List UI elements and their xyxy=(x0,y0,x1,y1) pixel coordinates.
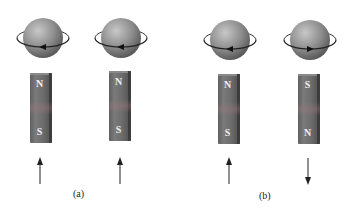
arrow-up-icon xyxy=(114,157,126,185)
magnet-pole-bottom: S xyxy=(218,128,237,138)
panel-label-b: (b) xyxy=(259,190,271,201)
bar-magnet-4: S N xyxy=(298,74,320,144)
panel-label-a: (a) xyxy=(73,188,84,199)
bar-magnet-2: N S xyxy=(109,71,131,141)
magnet-pole-bottom: S xyxy=(30,127,49,137)
spinning-electron-sphere-3 xyxy=(200,16,260,66)
sphere-icon xyxy=(280,16,340,66)
bar-magnet-1: N S xyxy=(30,73,52,143)
magnet-pole-top: N xyxy=(109,77,128,87)
magnet-pole-top: N xyxy=(30,79,49,89)
bar-magnet-3: N S xyxy=(218,74,240,144)
spinning-electron-sphere-4 xyxy=(280,16,340,66)
spinning-electron-sphere-1 xyxy=(13,14,73,64)
magnet-pole-bottom: S xyxy=(109,125,128,135)
spinning-electron-sphere-2 xyxy=(91,14,151,64)
sphere-icon xyxy=(200,16,260,66)
magnet-pole-bottom: N xyxy=(298,128,317,138)
magnet-pole-top: S xyxy=(298,80,317,90)
sphere-icon xyxy=(91,14,151,64)
arrow-down-icon xyxy=(302,157,314,185)
magnet-pole-top: N xyxy=(218,80,237,90)
sphere-icon xyxy=(13,14,73,64)
arrow-up-icon xyxy=(223,157,235,185)
arrow-up-icon xyxy=(34,157,46,185)
